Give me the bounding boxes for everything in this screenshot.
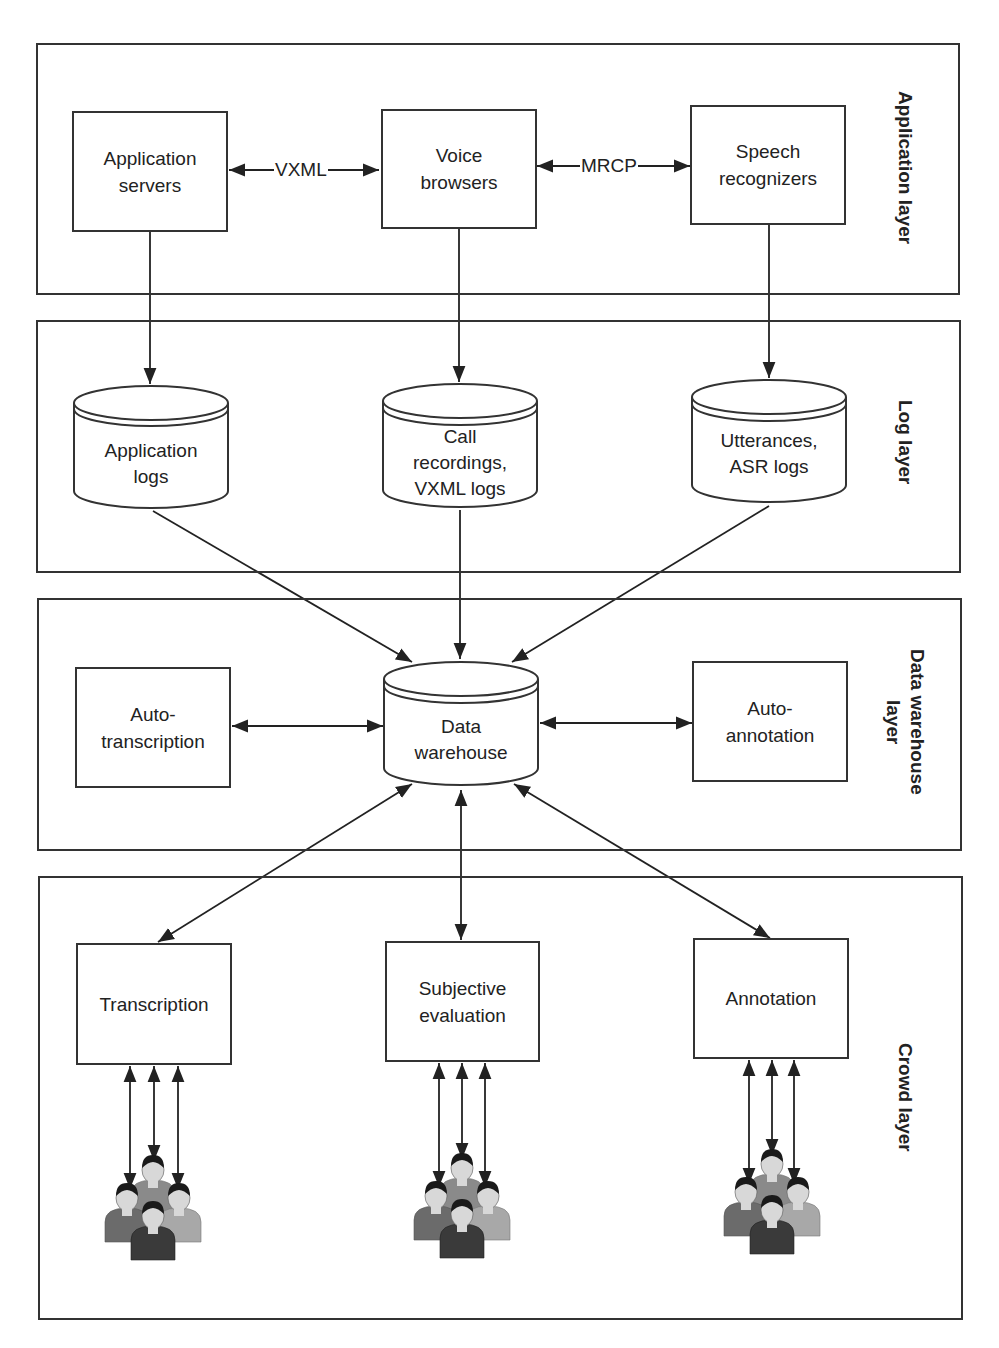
- cylinder-label-utterances: Utterances, ASR logs: [692, 414, 846, 494]
- node-label: Data warehouse: [415, 714, 508, 766]
- node-label: Speech recognizers: [719, 138, 817, 192]
- node-label: Annotation: [726, 985, 817, 1012]
- node-label: Auto- transcription: [101, 701, 205, 755]
- node-auto-annotation: Auto- annotation: [692, 661, 848, 782]
- node-subjective-evaluation: Subjective evaluation: [385, 941, 540, 1062]
- node-label: Application servers: [104, 145, 197, 199]
- node-label: Auto- annotation: [726, 695, 815, 749]
- node-transcription: Transcription: [76, 943, 232, 1065]
- node-label: Subjective evaluation: [419, 975, 507, 1029]
- node-voice-browsers: Voice browsers: [381, 109, 537, 229]
- edge-label-vxml: VXML: [274, 159, 328, 181]
- layer-label-log: Log layer: [893, 387, 917, 497]
- cylinder-label-data-warehouse: Data warehouse: [384, 700, 538, 780]
- edge-label-mrcp: MRCP: [580, 155, 638, 177]
- node-auto-transcription: Auto- transcription: [75, 667, 231, 788]
- cylinder-label-application-logs: Application logs: [74, 420, 228, 508]
- layer-label-application: Application layer: [893, 73, 917, 263]
- node-speech-recognizers: Speech recognizers: [690, 105, 846, 225]
- layer-label-data-warehouse: Data warehouse layer: [881, 632, 929, 812]
- cylinder-label-call-recordings: Call recordings, VXML logs: [383, 418, 537, 508]
- node-application-servers: Application servers: [72, 111, 228, 232]
- node-label: Application logs: [105, 438, 198, 490]
- layer-label-crowd: Crowd layer: [893, 1030, 917, 1165]
- node-annotation: Annotation: [693, 938, 849, 1059]
- node-label: Call recordings, VXML logs: [413, 424, 507, 502]
- node-label: Utterances, ASR logs: [720, 428, 817, 480]
- node-label: Transcription: [99, 991, 208, 1018]
- node-label: Voice browsers: [420, 142, 497, 196]
